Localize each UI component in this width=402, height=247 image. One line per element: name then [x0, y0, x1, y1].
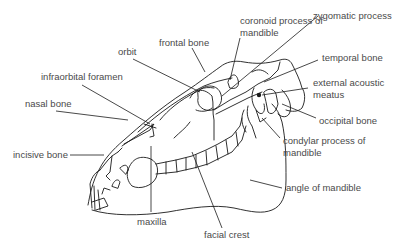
incisors [90, 170, 110, 210]
label-infraorbital-foramen: infraorbital foramen [41, 71, 123, 83]
label-external-acoustic-meatus: external acoustic meatus [313, 77, 384, 100]
zygomatic-arch [214, 62, 280, 114]
label-frontal-bone: frontal bone [159, 37, 209, 49]
label-coronoid-line2: mandible [240, 27, 323, 39]
label-facial-crest: facial crest [204, 229, 249, 241]
leader-nasal [56, 111, 128, 120]
label-incisive-bone: incisive bone [13, 149, 68, 161]
leader-orbit [133, 59, 200, 92]
leader-frontal [192, 48, 205, 72]
label-coronoid-line1: coronoid process of [240, 15, 323, 27]
label-zygomatic-process: zygomatic process [313, 10, 392, 22]
label-angle-of-mandible: angle of mandible [286, 182, 361, 194]
label-condylar-line1: condylar process of [283, 135, 365, 147]
mandible-outline [92, 104, 286, 215]
leader-condylar [262, 118, 280, 138]
horse-skull-diagram: coronoid process of mandible zygomatic p… [0, 0, 402, 247]
orbit-shape [198, 86, 222, 110]
leader-temporal [264, 60, 318, 82]
label-maxilla: maxilla [137, 216, 167, 228]
label-coronoid-process: coronoid process of mandible [240, 15, 323, 38]
label-temporal-bone: temporal bone [322, 52, 383, 64]
label-nasal-bone: nasal bone [25, 98, 71, 110]
leader-angle [250, 180, 282, 188]
label-external-acoustic-line2: meatus [313, 89, 384, 101]
upper-tooth-row [127, 157, 157, 187]
label-occipital-bone: occipital bone [319, 115, 377, 127]
label-condylar-process: condylar process of mandible [283, 135, 365, 158]
external-acoustic-meatus-mark [257, 93, 261, 97]
molar-row [156, 118, 246, 174]
label-orbit: orbit [118, 46, 136, 58]
leader-coronoid [230, 38, 240, 80]
label-condylar-line2: mandible [283, 147, 365, 159]
label-external-acoustic-line1: external acoustic [313, 77, 384, 89]
